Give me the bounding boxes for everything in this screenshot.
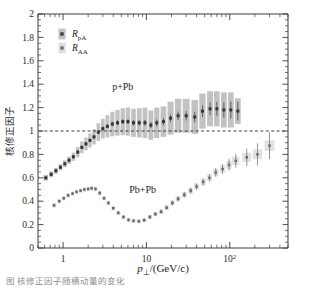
data-point-marker <box>208 177 211 180</box>
data-point-marker <box>122 216 125 219</box>
data-point-marker <box>143 219 146 222</box>
y-tick-label: 1.8 <box>22 33 34 43</box>
data-point-marker <box>98 192 101 195</box>
y-tick-label: 0.4 <box>22 196 34 206</box>
data-point-marker <box>246 156 249 159</box>
data-point-marker <box>127 219 130 222</box>
data-point-marker <box>149 124 152 127</box>
data-point-marker <box>256 153 259 156</box>
data-point-marker <box>93 135 96 138</box>
data-point-marker <box>103 197 106 200</box>
data-point-marker <box>185 114 188 117</box>
data-point-marker <box>116 121 119 124</box>
data-point-marker <box>177 114 180 117</box>
data-point-marker <box>71 192 74 195</box>
data-point-marker <box>229 108 232 111</box>
data-point-marker <box>138 220 141 223</box>
data-point-marker <box>76 151 79 154</box>
data-point-marker <box>50 173 53 176</box>
data-point-marker <box>201 110 204 113</box>
data-point-marker <box>228 164 231 167</box>
data-point-marker <box>106 125 109 128</box>
figure-container: 00.20.40.60.811.21.41.61.82 110102 p+PbP… <box>0 0 310 290</box>
data-point-marker <box>143 121 146 124</box>
data-point-marker <box>171 202 174 205</box>
data-point-marker <box>84 142 87 145</box>
data-point-marker <box>126 120 129 123</box>
y-tick-label: 1 <box>29 126 34 136</box>
data-point-marker <box>138 121 141 124</box>
data-point-marker <box>236 110 239 113</box>
data-point-marker <box>160 210 163 213</box>
figure-background <box>0 0 310 290</box>
data-point-marker <box>72 155 75 158</box>
data-point-marker <box>44 176 47 179</box>
y-tick-label: 1.2 <box>22 103 34 113</box>
data-point-marker <box>79 189 82 192</box>
y-tick-label: 0 <box>29 243 34 253</box>
data-point-marker <box>94 188 97 191</box>
data-point-marker <box>149 216 152 219</box>
data-point-marker <box>215 107 218 110</box>
data-point-marker <box>88 139 91 142</box>
data-point-marker <box>107 202 110 205</box>
data-point-marker <box>189 189 192 192</box>
data-point-marker <box>63 197 66 200</box>
y-tick-label: 0.6 <box>22 173 34 183</box>
data-point-marker <box>154 213 157 216</box>
data-point-marker <box>80 146 83 149</box>
data-point-marker <box>75 191 78 194</box>
data-point-marker <box>162 120 165 123</box>
data-point-marker <box>215 171 218 174</box>
data-point-marker <box>155 121 158 124</box>
y-axis-label: 核修正因子 <box>4 106 15 156</box>
data-point-marker <box>101 127 104 130</box>
data-point-marker <box>83 188 86 191</box>
data-point-marker <box>165 206 168 209</box>
data-point-marker <box>111 122 114 125</box>
y-tick-label: 1.4 <box>22 79 34 89</box>
data-point-marker <box>132 220 135 223</box>
data-point-marker <box>63 162 66 165</box>
data-point-marker <box>183 194 186 197</box>
data-point-marker <box>112 207 115 210</box>
legend-marker <box>60 46 63 49</box>
data-point-marker <box>202 181 205 184</box>
x-tick-label: 1 <box>61 254 66 264</box>
data-point-marker <box>222 108 225 111</box>
data-point-marker <box>193 115 196 118</box>
data-point-marker <box>58 200 61 203</box>
y-tick-label: 1.6 <box>22 56 34 66</box>
data-point-marker <box>209 107 212 110</box>
data-point-marker <box>68 159 71 162</box>
legend-marker <box>60 32 63 35</box>
y-tick-label: 2 <box>29 9 34 19</box>
data-point-marker <box>117 212 120 215</box>
data-point-marker <box>195 185 198 188</box>
figure-caption-strip: 图 核修正因子随横动量的变化 <box>0 274 310 290</box>
data-point-marker <box>121 120 124 123</box>
data-point-marker <box>221 168 224 171</box>
data-point-marker <box>177 198 180 201</box>
data-point-marker <box>169 117 172 120</box>
data-point-marker <box>268 144 271 147</box>
y-tick-label: 0.2 <box>22 220 34 230</box>
annotation-pb-pb: Pb+Pb <box>129 184 156 195</box>
data-point-marker <box>87 188 90 191</box>
data-point-marker <box>53 204 56 207</box>
data-point-marker <box>132 121 135 124</box>
annotation-p-pb: p+Pb <box>112 81 133 92</box>
nuclear-modification-factor-chart: 00.20.40.60.811.21.41.61.82 110102 p+PbP… <box>0 0 310 290</box>
y-tick-label: 0.8 <box>22 150 34 160</box>
data-point-marker <box>97 131 100 134</box>
data-point-marker <box>67 194 70 197</box>
data-point-marker <box>234 160 237 163</box>
data-point-marker <box>59 166 62 169</box>
data-point-marker <box>54 169 57 172</box>
figure-caption: 图 核修正因子随横动量的变化 <box>6 274 125 286</box>
data-point-marker <box>90 187 93 190</box>
